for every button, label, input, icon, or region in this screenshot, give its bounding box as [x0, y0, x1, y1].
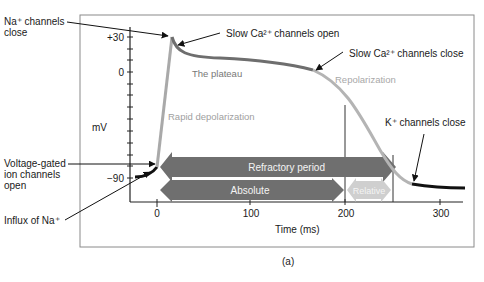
- k-close-arrow: [414, 134, 424, 181]
- na-close-label-line2: close: [4, 27, 28, 38]
- x-tick-100: 100: [243, 208, 260, 219]
- rapid-depolarization-segment: [157, 37, 172, 167]
- relative-label: Relative: [353, 186, 386, 196]
- plateau-segment: [172, 37, 313, 70]
- voltage-gated-label-line2: ion channels: [4, 169, 60, 180]
- y-tick-0: 0: [118, 67, 124, 78]
- y-axis-label: mV: [92, 122, 107, 133]
- absolute-label: Absolute: [231, 185, 270, 196]
- ca-close-arrow: [316, 52, 343, 70]
- repolarization-label: Repolarization: [335, 74, 396, 85]
- x-axis: [130, 199, 463, 207]
- rapid-depolarization-label: Rapid depolarization: [168, 111, 255, 122]
- x-tick-300: 300: [433, 208, 450, 219]
- resting-after-segment: [412, 184, 465, 188]
- y-axis: [127, 27, 133, 202]
- refractory-period-label: Refractory period: [248, 162, 325, 173]
- x-tick-200: 200: [338, 208, 355, 219]
- ca-open-label: Slow Ca²⁺ channels open: [226, 28, 339, 39]
- figure-caption: (a): [282, 256, 294, 267]
- y-tick-minus90: −90: [107, 173, 124, 184]
- ca-open-arrow: [178, 33, 220, 45]
- voltage-gated-label-line3: open: [4, 180, 26, 191]
- action-potential-figure: +30 0 −90 0 100 200 300 mV Time (ms) (a)…: [0, 0, 484, 282]
- k-close-label: K⁺ channels close: [385, 117, 466, 128]
- x-tick-0: 0: [154, 208, 160, 219]
- influx-na-label: Influx of Na⁺: [4, 215, 60, 226]
- plateau-label: The plateau: [192, 68, 242, 79]
- y-tick-plus30: +30: [107, 32, 124, 43]
- na-close-label-line1: Na⁺ channels: [4, 16, 65, 27]
- ca-close-label: Slow Ca²⁺ channels close: [349, 48, 464, 59]
- resting-segment: [135, 167, 157, 177]
- voltage-gated-label-line1: Voltage-gated: [4, 158, 66, 169]
- x-axis-label: Time (ms): [275, 224, 320, 235]
